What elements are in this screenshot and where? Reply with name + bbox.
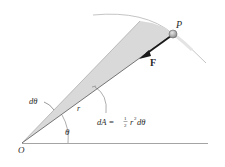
label-dtheta: dθ: [29, 96, 37, 106]
area-formula: dA = 1 2 r 2 dθ: [97, 116, 145, 128]
central-force-diagram: P F O θ dθ r dA = 1 2 r 2 dθ: [0, 0, 225, 167]
dtheta-pointer: [44, 102, 54, 110]
formula-half-den: 2: [124, 123, 127, 128]
trajectory-glow: [176, 36, 192, 50]
area-leader: [95, 87, 106, 113]
label-origin: O: [18, 145, 25, 155]
formula-half-num: 1: [124, 116, 127, 121]
formula-dtheta: dθ: [137, 117, 145, 127]
label-force: F: [150, 57, 156, 68]
formula-lhs: dA =: [97, 117, 114, 127]
label-theta: θ: [65, 127, 70, 137]
particle-ball: [169, 30, 177, 38]
label-r: r: [77, 104, 81, 113]
label-p: P: [175, 19, 182, 30]
wedge-upper-edge: [22, 21, 140, 143]
